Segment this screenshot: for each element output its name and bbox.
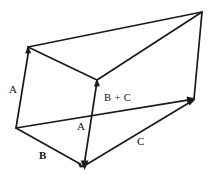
edge-top-left-to-interior-apex: [28, 47, 97, 80]
vector-diagram-figure: A B + C A B C: [0, 0, 209, 175]
vector-diagram-canvas: [0, 0, 209, 175]
vector-a-left-shaft: [16, 51, 29, 128]
vector-a-middle-shaft: [84, 84, 97, 166]
vector-b-plus-c-shaft: [16, 100, 189, 128]
vector-b-shaft: [16, 128, 80, 164]
label-vector-a-middle: A: [77, 121, 85, 132]
label-vector-c: C: [137, 136, 145, 147]
label-vector-b: B: [39, 150, 47, 161]
label-vector-a-left: A: [9, 84, 17, 95]
label-vector-b-plus-c: B + C: [104, 93, 131, 104]
edge-top-right-to-right-middle: [194, 12, 202, 99]
